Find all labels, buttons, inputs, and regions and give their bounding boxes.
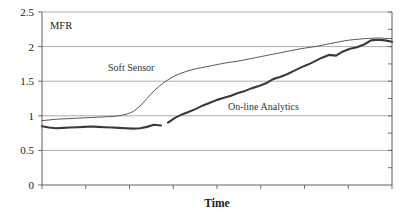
y-axis-tick-labels: 2.5 2 1.5 1 0.5 0 xyxy=(20,6,34,191)
y-tick-label-1.5: 1.5 xyxy=(20,75,34,87)
series-annotation-online-analytics: On-line Analytics xyxy=(228,101,299,112)
x-axis-title: Time xyxy=(204,197,229,209)
chart-svg: 2.5 2 1.5 1 0.5 0 MFR Soft Sensor On-lin… xyxy=(0,0,406,219)
y-tick-label-2.5: 2.5 xyxy=(20,6,34,18)
series-annotation-soft-sensor: Soft Sensor xyxy=(108,62,155,73)
y-axis-ticks xyxy=(38,12,42,185)
chart-container: 2.5 2 1.5 1 0.5 0 MFR Soft Sensor On-lin… xyxy=(0,0,406,219)
y-axis-caption: MFR xyxy=(50,20,72,31)
plot-area-background xyxy=(42,12,392,185)
x-axis-ticks xyxy=(42,185,392,189)
y-tick-label-0: 0 xyxy=(29,179,35,191)
y-tick-label-1.0: 1 xyxy=(29,110,35,122)
y-tick-label-0.5: 0.5 xyxy=(20,144,34,156)
y-tick-label-2.0: 2 xyxy=(29,41,35,53)
